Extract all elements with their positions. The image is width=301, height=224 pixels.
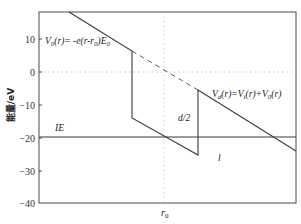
y-tick-label-neg10: −10 <box>19 100 35 111</box>
y-tick-label-neg40: −40 <box>19 198 35 209</box>
y-tick-label-neg20: −20 <box>19 133 35 144</box>
y-axis-label: 能量/eV <box>5 88 16 122</box>
y-tick-label-10: 10 <box>25 34 35 45</box>
d-half-label: d/2 <box>178 113 190 123</box>
y-tick-label-neg30: −30 <box>19 166 35 177</box>
x-axis-label: r0 <box>161 207 169 220</box>
energy-diagram-chart: 10 0 −10 −20 −30 −40 能量/eV r0 V0(r)= -e(… <box>0 0 301 224</box>
ie-label: IE <box>54 123 64 133</box>
l-label: l <box>218 153 221 163</box>
y-tick-label-0: 0 <box>30 67 35 78</box>
v0-equation-label: V0(r)= -e(r-r0)E0 <box>45 36 111 48</box>
vd-equation-label: Vd(r)=Vi(r)+V0(r) <box>212 89 281 101</box>
vd-potential-curve <box>69 12 296 155</box>
v0-dashed-line <box>132 51 198 90</box>
